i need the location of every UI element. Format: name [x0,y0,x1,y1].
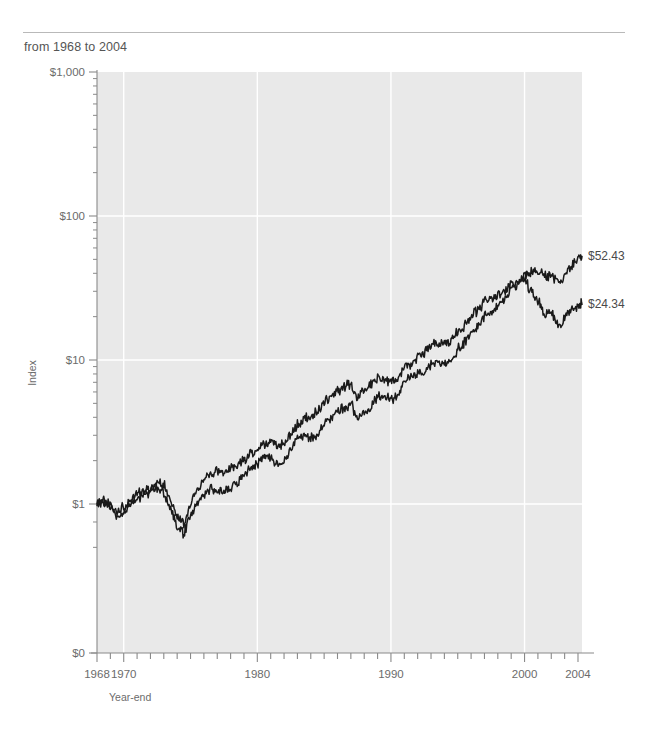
y-tick-label: $0 [72,647,85,659]
x-tick-label: 1970 [111,668,137,680]
line-chart-svg: $1,000$100$10$1$019681970198019902000200… [0,0,655,743]
series-end-label: $52.43 [588,249,625,263]
y-tick-label: $10 [66,354,85,366]
y-axis-title: Index [26,359,38,385]
x-tick-label: 2000 [512,668,538,680]
y-tick-label: $100 [59,210,85,222]
plot-area [97,72,582,653]
x-axis-title: Year-end [109,691,151,703]
x-tick-label: 1980 [245,668,271,680]
chart-figure: from 1968 to 2004 $1,000$100$10$1$019681… [0,0,655,743]
plot-background-layer [97,72,582,653]
series-end-label: $24.34 [588,297,625,311]
y-tick-label: $1 [72,498,85,510]
x-tick-label: 1968 [84,668,110,680]
x-tick-label: 1990 [378,668,404,680]
x-tick-label: 2004 [565,668,591,680]
y-tick-label: $1,000 [50,66,85,78]
